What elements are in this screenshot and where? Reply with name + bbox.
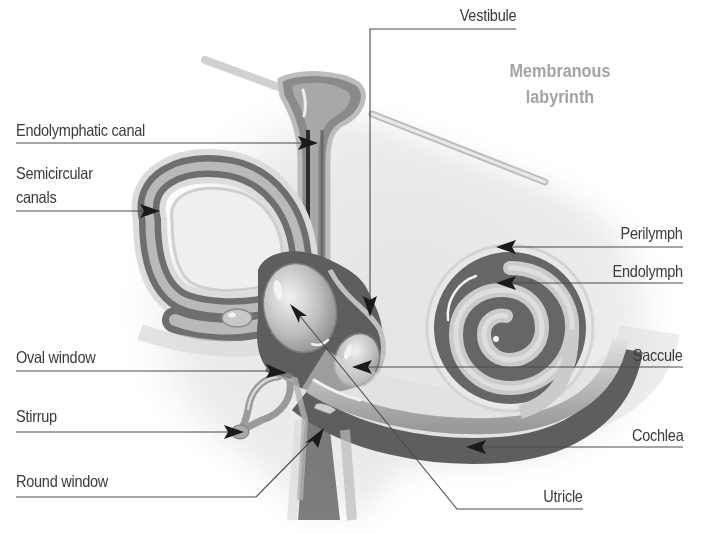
title-line-1: Membranous bbox=[497, 58, 623, 84]
label-utricle: Utricle bbox=[544, 484, 583, 508]
label-endolymph: Endolymph bbox=[613, 259, 683, 283]
label-oval-window: Oval window bbox=[16, 345, 95, 369]
label-semicircular-canals: Semicircular canals bbox=[16, 161, 93, 209]
label-perilymph: Perilymph bbox=[621, 221, 683, 245]
label-vestibule: Vestibule bbox=[459, 3, 516, 27]
label-semicircular-line-1: Semicircular bbox=[16, 161, 93, 185]
label-round-window: Round window bbox=[16, 469, 108, 493]
label-stirrup: Stirrup bbox=[16, 404, 57, 428]
label-cochlea: Cochlea bbox=[632, 423, 683, 447]
label-semicircular-line-2: canals bbox=[16, 185, 93, 209]
label-saccule: Saccule bbox=[633, 343, 683, 367]
diagram-title: Membranous labyrinth bbox=[497, 58, 623, 110]
cochlea-spiral-shape bbox=[427, 245, 593, 412]
title-line-2: labyrinth bbox=[497, 84, 623, 110]
inner-ear-diagram: Membranous labyrinth Endolymphatic canal… bbox=[0, 0, 707, 534]
label-endolymphatic-canal: Endolymphatic canal bbox=[16, 118, 145, 142]
